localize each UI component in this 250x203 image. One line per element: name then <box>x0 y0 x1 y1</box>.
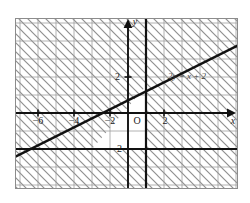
equation-annotation-label: 2y = x + 2 <box>168 71 207 81</box>
x-tick-label-minus2: −2 <box>105 115 116 126</box>
y-tick-label-minus2: −2 <box>111 143 122 154</box>
y-axis-label: y <box>132 16 138 27</box>
y-tick-label-2: 2 <box>115 71 120 82</box>
coordinate-plane-svg: −6 −4 −2 2 2 −2 O x y 2y = x + 2 <box>0 0 250 203</box>
x-axis-label: x <box>230 115 236 126</box>
origin-label: O <box>133 115 140 126</box>
shaded-region-hatching <box>16 19 238 189</box>
graph-figure: −6 −4 −2 2 2 −2 O x y 2y = x + 2 <box>0 0 250 203</box>
x-tick-label-minus6: −6 <box>33 115 44 126</box>
x-tick-label-minus4: −4 <box>69 115 80 126</box>
x-tick-label-2: 2 <box>163 115 168 126</box>
